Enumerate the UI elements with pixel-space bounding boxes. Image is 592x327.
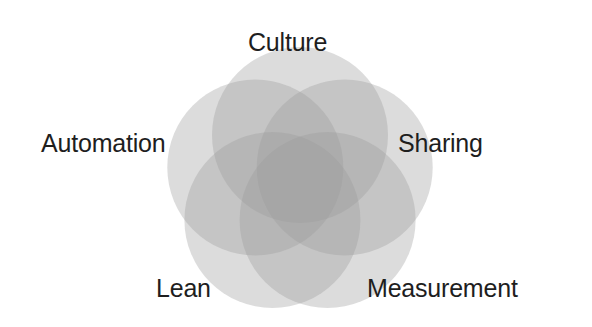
label-lean: Lean: [156, 276, 211, 301]
label-sharing: Sharing: [398, 131, 483, 156]
label-measurement: Measurement: [367, 276, 518, 301]
circle-automation: [167, 80, 343, 256]
label-automation: Automation: [41, 131, 165, 156]
label-culture: Culture: [248, 30, 327, 55]
